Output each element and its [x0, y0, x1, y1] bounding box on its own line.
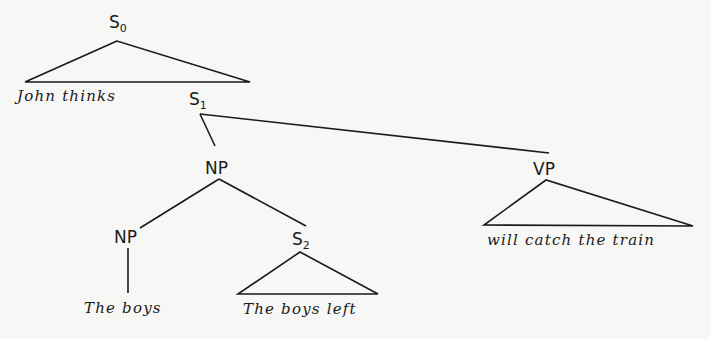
- node-np-top: NP: [205, 158, 228, 178]
- leaf-will-catch-the-train: will catch the train: [487, 231, 655, 249]
- leaf-the-boys: The boys: [84, 299, 162, 317]
- triangle-vp: [484, 180, 693, 226]
- node-np-inner: NP: [114, 227, 137, 247]
- node-s1: S1: [189, 89, 207, 112]
- triangle-s2: [238, 252, 378, 294]
- triangle-s0: [25, 41, 250, 82]
- edge-s1-vp: [200, 114, 549, 153]
- node-s0: S0: [109, 12, 127, 35]
- edge-np-np: [140, 179, 219, 228]
- node-s2: S2: [292, 229, 310, 252]
- leaf-john-thinks: John thinks: [14, 87, 116, 105]
- edge-np-s2: [219, 179, 306, 226]
- edge-s1-np: [200, 114, 215, 146]
- node-vp: VP: [533, 159, 555, 179]
- syntax-tree: S0 John thinks S1 NP VP will catch the t…: [0, 0, 710, 339]
- leaf-the-boys-left: The boys left: [243, 300, 357, 318]
